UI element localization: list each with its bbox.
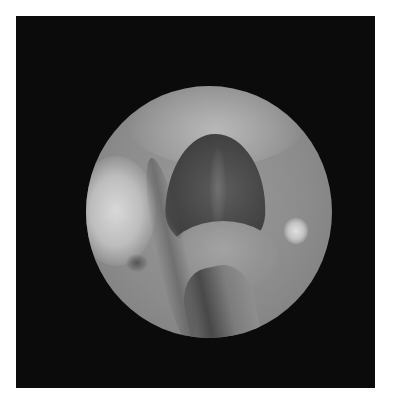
- endoscope-aperture: [86, 86, 332, 338]
- image-frame: [16, 16, 375, 388]
- vignette: [86, 86, 332, 338]
